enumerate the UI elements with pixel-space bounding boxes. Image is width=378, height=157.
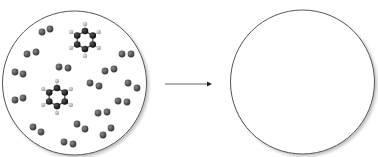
diatomic-atom [65,65,72,72]
diagram-canvas [0,0,378,157]
diatomic-atom [61,139,68,146]
diatomic-atom [12,69,19,76]
diatomic-atom [82,126,89,133]
diatomic-atom [119,51,126,58]
diatomic-atom [87,80,94,87]
diatomic-atom [96,83,103,90]
right-container-circle [231,10,375,154]
hydrogen-atom [97,46,101,50]
diatomic-atom [20,71,27,78]
carbon-atom [54,103,61,110]
carbon-atom [61,89,68,96]
arrow-icon [165,82,212,87]
diatomic-atom [128,51,135,58]
diatomic-atom [104,109,111,116]
carbon-atom [82,28,89,35]
diatomic-atom [24,51,31,58]
diatomic-atom [74,121,81,128]
diatomic-atom [115,98,122,105]
hydrogen-atom [69,30,73,34]
diatomic-atom [70,141,77,148]
diatomic-atom [100,132,107,139]
diatomic-atom [33,49,40,56]
carbon-atom [46,98,53,105]
diatomic-atom [111,66,118,73]
diatomic-atom [47,26,54,33]
diatomic-atom [102,68,109,75]
carbon-atom [46,89,53,96]
hydrogen-atom [55,79,59,83]
hydrogen-atom [69,46,73,50]
carbon-atom [89,32,96,39]
diatomic-atom [30,124,37,131]
diatomic-atom [95,110,102,117]
carbon-atom [61,98,68,105]
diatomic-atom [20,95,27,102]
carbon-atom [82,46,89,53]
diatomic-atom [108,125,115,132]
diatomic-atom [125,80,132,87]
carbon-atom [74,32,81,39]
carbon-atom [54,85,61,92]
hydrogen-atom [69,87,73,91]
diatomic-atom [56,64,63,71]
hydrogen-atom [83,22,87,26]
hydrogen-atom [69,103,73,107]
carbon-atom [89,41,96,48]
hydrogen-atom [41,103,45,107]
diatomic-atom [12,97,19,104]
hydrogen-atom [97,30,101,34]
diatomic-atom [124,99,131,106]
hydrogen-atom [83,54,87,58]
hydrogen-atom [55,111,59,115]
hydrogen-atom [41,87,45,91]
diatomic-atom [38,129,45,136]
reaction-diagram [0,0,378,157]
diatomic-atom [39,29,46,36]
carbon-atom [74,41,81,48]
diatomic-atom [134,85,141,92]
